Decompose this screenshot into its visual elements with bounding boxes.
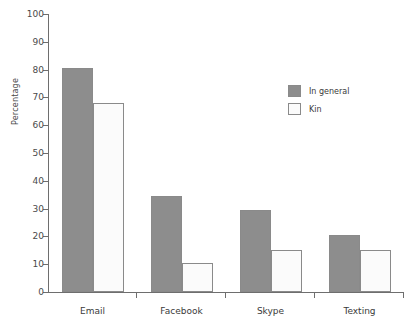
x-axis-label-facebook: Facebook [160, 306, 202, 316]
bar-skype-kin [271, 250, 302, 292]
bar-texting-in-general [329, 235, 360, 292]
x-axis-tick [314, 293, 315, 298]
bar-facebook-kin [182, 263, 213, 292]
legend-label-in-general: In general [309, 87, 349, 96]
y-axis-tick-label: 50 [18, 149, 44, 158]
y-axis-tick-label: 30 [18, 205, 44, 214]
y-axis-tick-label: 20 [18, 232, 44, 241]
y-axis-tick-label: 70 [18, 93, 44, 102]
y-axis-tick-label: 40 [18, 177, 44, 186]
bar-email-kin [93, 103, 124, 292]
x-axis-label-skype: Skype [257, 306, 284, 316]
legend-label-kin: Kin [309, 105, 322, 114]
legend-item-in-general: In general [288, 83, 349, 99]
y-axis-tick-label: 90 [18, 38, 44, 47]
bar-skype-in-general [240, 210, 271, 292]
bar-chart: Percentage 0102030405060708090100 EmailF… [0, 0, 416, 323]
legend-swatch-in-general [288, 85, 301, 97]
bar-email-in-general [62, 68, 93, 292]
plot-area: 0102030405060708090100 EmailFacebookSkyp… [48, 14, 404, 292]
y-axis-tick-label: 0 [18, 288, 44, 297]
y-axis-tick-label: 10 [18, 260, 44, 269]
y-axis-tick-label: 100 [18, 10, 44, 19]
legend: In general Kin [288, 83, 349, 119]
x-axis-label-texting: Texting [343, 306, 375, 316]
legend-swatch-kin [288, 103, 301, 115]
y-axis-tick-label: 60 [18, 121, 44, 130]
bar-facebook-in-general [151, 196, 182, 292]
x-axis-line [48, 292, 404, 293]
y-axis-line [48, 14, 49, 293]
x-axis-label-email: Email [80, 306, 105, 316]
x-axis-tick [136, 293, 137, 298]
legend-item-kin: Kin [288, 101, 349, 117]
y-axis-tick-label: 80 [18, 66, 44, 75]
x-axis-tick [225, 293, 226, 298]
bar-texting-kin [360, 250, 391, 292]
x-axis-tick [403, 293, 404, 298]
